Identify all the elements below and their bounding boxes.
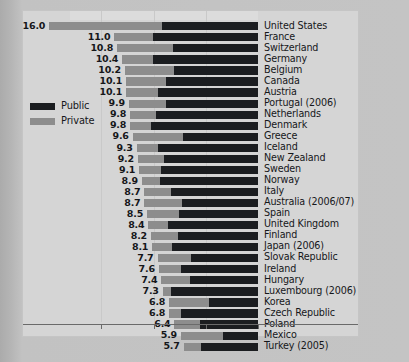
category-label: Netherlands <box>264 108 321 120</box>
bar-segment-private <box>158 254 191 262</box>
legend-item-public: Public <box>30 100 94 112</box>
bar-row: 10.2Belgium <box>23 65 358 76</box>
legend-label-public: Public <box>61 101 89 111</box>
category-label: Slovak Republic <box>264 251 338 263</box>
category-label: Mexico <box>264 329 297 341</box>
bar-segment-private <box>125 66 174 74</box>
bar-row: 6.8Czech Republic <box>23 308 358 319</box>
stacked-bar <box>137 144 258 152</box>
plot-top-band <box>70 11 258 20</box>
bar-row: 9.1Sweden <box>23 165 358 176</box>
stacked-bar <box>152 243 258 251</box>
bar-rows: 16.0United States11.0France10.8Switzerla… <box>23 21 358 352</box>
bar-segment-private <box>144 199 181 207</box>
stacked-bar <box>138 155 258 163</box>
chart-figure: 16.0United States11.0France10.8Switzerla… <box>0 0 409 362</box>
plot-panel: 16.0United States11.0France10.8Switzerla… <box>23 11 358 336</box>
stacked-bar <box>161 276 258 284</box>
bar-value-label: 11.0 <box>76 31 110 42</box>
category-label: Spain <box>264 207 290 219</box>
bar-value-label: 9.2 <box>100 153 134 164</box>
bar-segment-private <box>148 221 168 229</box>
bar-value-label: 9.9 <box>91 97 125 108</box>
legend-swatch-public-icon <box>30 103 55 110</box>
stacked-bar <box>151 232 258 240</box>
bar-segment-private <box>151 232 178 240</box>
chart-legend: Public Private <box>30 100 94 130</box>
category-label: United States <box>264 20 327 32</box>
axis-tick <box>101 324 102 329</box>
category-label: Switzerland <box>264 42 318 54</box>
bar-segment-private <box>169 309 181 317</box>
legend-label-private: Private <box>61 116 94 126</box>
bar-value-label: 8.1 <box>114 241 148 252</box>
figure-footnote <box>300 354 406 361</box>
category-label: France <box>264 31 295 43</box>
bar-value-label: 8.5 <box>109 208 143 219</box>
category-label: Portugal (2006) <box>264 97 336 109</box>
bar-value-label: 7.6 <box>121 263 155 274</box>
bar-row: 7.7Slovak Republic <box>23 253 358 264</box>
bar-segment-private <box>126 88 158 96</box>
bar-value-label: 8.4 <box>110 219 144 230</box>
bar-row: 16.0United States <box>23 21 358 32</box>
bar-value-label: 9.6 <box>95 130 129 141</box>
bar-segment-private <box>144 188 170 196</box>
bar-segment-private <box>129 100 166 108</box>
stacked-bar <box>114 33 258 41</box>
bar-row: 8.4United Kingdom <box>23 220 358 231</box>
stacked-bar <box>142 177 258 185</box>
stacked-bar <box>159 265 258 273</box>
stacked-bar <box>122 55 258 63</box>
bar-segment-private <box>161 276 190 284</box>
stacked-bar <box>126 88 258 96</box>
bar-value-label: 6.8 <box>131 296 165 307</box>
stacked-bar <box>144 188 258 196</box>
bar-value-label: 7.4 <box>123 274 157 285</box>
bar-segment-private <box>49 22 162 30</box>
bar-value-label: 8.9 <box>104 175 138 186</box>
category-label: United Kingdom <box>264 218 339 230</box>
bar-row: 5.7Turkey (2005) <box>23 341 358 352</box>
bar-segment-private <box>139 166 160 174</box>
axis-tick <box>206 324 207 329</box>
bar-row: 8.9Norway <box>23 176 358 187</box>
bar-segment-private <box>130 122 150 130</box>
bar-value-label: 10.1 <box>88 86 122 97</box>
category-label: Belgium <box>264 64 302 76</box>
bar-value-label: 10.8 <box>79 42 113 53</box>
category-label: Norway <box>264 174 300 186</box>
category-label: Denmark <box>264 119 307 131</box>
bar-segment-private <box>169 298 209 306</box>
bar-value-label: 8.7 <box>106 186 140 197</box>
stacked-bar <box>163 287 258 295</box>
stacked-bar <box>117 44 258 52</box>
stacked-bar <box>158 254 258 262</box>
axis-tick <box>154 324 155 329</box>
bar-value-label: 7.3 <box>125 285 159 296</box>
bar-segment-private <box>142 177 161 185</box>
stacked-bar <box>169 298 258 306</box>
stacked-bar <box>133 133 258 141</box>
bar-segment-private <box>181 332 223 340</box>
category-label: Iceland <box>264 141 298 153</box>
category-label: Australia (2006/07) <box>264 196 354 208</box>
stacked-bar <box>144 199 258 207</box>
bar-row: 9.2New Zealand <box>23 154 358 165</box>
bar-segment-private <box>138 155 164 163</box>
bar-segment-private <box>114 33 153 41</box>
bar-value-label: 16.0 <box>11 20 45 31</box>
bar-segment-private <box>159 265 181 273</box>
category-label: Korea <box>264 296 290 308</box>
bar-segment-private <box>184 343 202 351</box>
bar-row: 8.7Australia (2006/07) <box>23 198 358 209</box>
bar-row: 9.6Greece <box>23 131 358 142</box>
category-label: Austria <box>264 86 297 98</box>
bar-value-label: 9.1 <box>101 164 135 175</box>
bar-row: 10.4Germany <box>23 54 358 65</box>
bar-value-label: 9.8 <box>92 108 126 119</box>
bar-value-label: 7.7 <box>120 252 154 263</box>
bar-row: 7.3Luxembourg (2006) <box>23 286 358 297</box>
bar-value-label: 10.1 <box>88 75 122 86</box>
category-label: Greece <box>264 130 297 142</box>
